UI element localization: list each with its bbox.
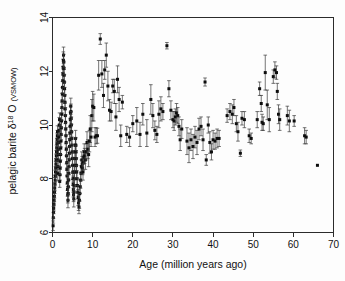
data-point [52, 224, 55, 227]
data-point [151, 114, 154, 117]
data-point [266, 103, 269, 106]
data-point [106, 85, 109, 88]
data-point [293, 119, 296, 122]
data-point [82, 171, 85, 174]
data-points [51, 34, 319, 231]
data-point [218, 137, 221, 140]
data-point [256, 118, 259, 121]
data-point [228, 110, 231, 113]
data-point [167, 87, 170, 90]
data-point [286, 114, 289, 117]
data-point [177, 125, 180, 128]
data-point [149, 98, 152, 101]
data-point [180, 128, 183, 131]
data-point [99, 38, 102, 41]
data-point [159, 107, 162, 110]
data-point [250, 137, 253, 140]
y-tick-label: 8 [39, 176, 50, 182]
data-point [260, 102, 263, 105]
data-point [114, 115, 117, 118]
data-point [111, 85, 114, 88]
data-point [262, 122, 265, 125]
plot-frame [53, 18, 334, 233]
data-point [189, 138, 192, 141]
data-point [185, 140, 188, 143]
data-point [187, 146, 190, 149]
data-point [135, 119, 138, 122]
data-point [131, 122, 134, 125]
data-point [196, 141, 199, 144]
x-tick-label: 0 [50, 239, 56, 250]
data-point [198, 128, 201, 131]
data-point [103, 68, 106, 71]
axis-tick-labels: 01020304050607068101214 [39, 12, 339, 250]
data-point [145, 132, 148, 135]
data-point [119, 134, 122, 137]
data-point [125, 133, 128, 136]
x-tick-label: 30 [167, 239, 179, 250]
data-point [110, 110, 113, 113]
data-point [200, 125, 203, 128]
data-point [96, 134, 99, 137]
data-point [210, 150, 213, 153]
axes-frame [53, 18, 334, 233]
data-point [268, 118, 271, 121]
data-point [207, 124, 210, 127]
data-point [204, 81, 207, 84]
data-point [116, 78, 119, 81]
y-tick-label: 12 [39, 65, 50, 77]
y-tick-label: 10 [39, 119, 50, 131]
data-point [248, 134, 251, 137]
axis-ticks [49, 18, 334, 237]
data-point [205, 158, 208, 161]
data-point [165, 44, 168, 47]
data-point [105, 54, 108, 57]
x-tick-label: 40 [208, 239, 220, 250]
data-point [276, 90, 279, 93]
figure-container: 01020304050607068101214 Age (million yea… [0, 0, 345, 281]
data-point [155, 133, 158, 136]
data-point [100, 72, 103, 75]
y-axis-title: pelagic barite δ18 O (VSMOW) [6, 67, 18, 195]
scatter-plot: 01020304050607068101214 Age (million yea… [0, 0, 345, 281]
x-tick-label: 20 [127, 239, 139, 250]
y-tick-label: 6 [39, 229, 50, 235]
data-point [214, 140, 217, 143]
data-point [264, 71, 267, 74]
data-point [141, 113, 144, 116]
x-tick-label: 70 [328, 239, 340, 250]
data-point [232, 106, 235, 109]
data-point [194, 136, 197, 139]
data-point [239, 152, 242, 155]
data-point [139, 133, 142, 136]
data-point [258, 87, 261, 90]
x-tick-label: 50 [248, 239, 260, 250]
data-point [97, 74, 100, 77]
data-point [305, 136, 308, 139]
data-point [161, 110, 164, 113]
data-point [121, 101, 124, 104]
x-axis-title: Age (million years ago) [139, 258, 246, 270]
data-point [236, 130, 239, 133]
data-point [118, 98, 121, 101]
data-point [92, 106, 95, 109]
data-point [87, 153, 90, 156]
y-tick-label: 14 [39, 12, 50, 24]
data-point [113, 90, 116, 93]
data-point [288, 119, 291, 122]
data-point [128, 136, 131, 139]
data-point [243, 118, 246, 121]
data-point [316, 164, 319, 167]
data-point [157, 113, 160, 116]
data-point [90, 136, 93, 139]
data-point [202, 138, 205, 141]
data-point [102, 94, 105, 97]
data-point [153, 129, 156, 132]
data-point [273, 68, 276, 71]
data-point [275, 71, 278, 74]
data-point [226, 114, 229, 117]
data-point [278, 118, 281, 121]
x-tick-label: 60 [288, 239, 300, 250]
x-tick-label: 10 [87, 239, 99, 250]
